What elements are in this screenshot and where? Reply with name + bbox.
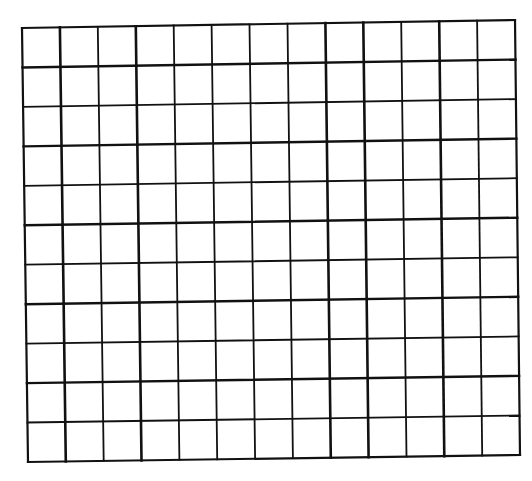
grid-border-vertical bbox=[22, 28, 28, 462]
grid-line-vertical bbox=[325, 23, 330, 458]
grid-border-vertical bbox=[515, 20, 520, 455]
grid-line-horizontal bbox=[24, 139, 517, 147]
hand-drawn-grid bbox=[0, 0, 532, 481]
grid-line-horizontal bbox=[24, 178, 517, 186]
grid-line-horizontal bbox=[27, 376, 519, 383]
grid-line-vertical bbox=[250, 24, 256, 459]
grid-line-vertical bbox=[60, 27, 66, 461]
grid-border-horizontal bbox=[28, 455, 520, 462]
grid-line-vertical bbox=[439, 21, 444, 456]
grid-line-vertical bbox=[401, 22, 406, 457]
grid-line-horizontal bbox=[23, 99, 516, 107]
grid-line-vertical bbox=[288, 24, 293, 459]
grid-line-horizontal bbox=[26, 297, 518, 304]
grid-border-horizontal bbox=[22, 20, 515, 28]
grid-line-vertical bbox=[136, 26, 142, 460]
grid-line-vertical bbox=[98, 27, 104, 461]
grid-line-horizontal bbox=[25, 257, 517, 264]
grid-line-vertical bbox=[174, 26, 180, 460]
grid-line-vertical bbox=[363, 23, 368, 458]
grid-line-horizontal bbox=[23, 60, 516, 68]
grid-line-horizontal bbox=[26, 336, 518, 343]
grid-line-vertical bbox=[477, 21, 482, 456]
grid-line-vertical bbox=[212, 25, 218, 459]
grid-line-horizontal bbox=[28, 416, 520, 423]
grid-line-horizontal bbox=[25, 218, 518, 226]
